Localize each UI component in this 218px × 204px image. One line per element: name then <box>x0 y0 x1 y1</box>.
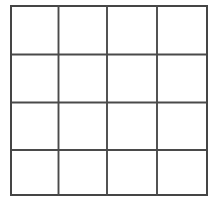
grid-cell-r4c3 <box>107 150 157 195</box>
grid-cell-r2c2 <box>59 55 108 103</box>
grid-cell-r4c2 <box>59 150 108 195</box>
grid-cell-r4c1 <box>10 150 59 195</box>
grid-cell-r2c4 <box>157 55 207 103</box>
image-canvas <box>0 0 218 204</box>
grid-cell-r1c4 <box>157 5 207 55</box>
grid-svg <box>10 5 208 196</box>
grid-cell-r3c4 <box>157 103 207 151</box>
grid-cell-r3c3 <box>107 103 157 151</box>
grid-figure <box>10 5 208 196</box>
grid-cell-r3c1 <box>10 103 59 151</box>
grid-cell-r3c2 <box>59 103 108 151</box>
grid-cells <box>10 5 207 195</box>
grid-cell-r1c1 <box>10 5 59 55</box>
grid-cell-r1c3 <box>107 5 157 55</box>
grid-cell-r2c1 <box>10 55 59 103</box>
grid-cell-r1c2 <box>59 5 108 55</box>
grid-cell-r2c3 <box>107 55 157 103</box>
grid-cell-r4c4 <box>157 150 207 195</box>
